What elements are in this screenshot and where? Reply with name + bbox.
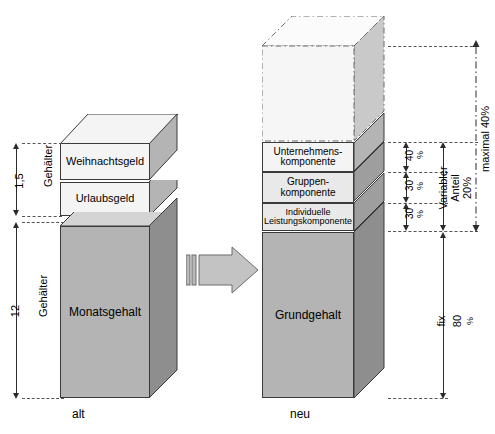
leader-urlaubsgeld-bottom <box>22 216 62 217</box>
urlaubsgeld-label: Urlaubsgeld <box>76 193 135 205</box>
dim-anteil-individuell-unit: % <box>415 202 425 226</box>
leader-monatsgehalt-top <box>22 222 64 223</box>
dim-fix-value: 80 <box>451 278 463 364</box>
gruppenkomponente-label-line2: komponente <box>280 188 335 199</box>
dim-anteil-gruppe-value: 30 <box>404 173 415 199</box>
dim-variabler-anteil-label: Variabler <box>437 145 449 231</box>
dim-monatsgehalt-unit: Gehälter <box>37 261 49 331</box>
monatsgehalt-label: Monatsgehalt <box>69 306 141 319</box>
dim-anteil-unternehmen-unit: % <box>415 143 425 167</box>
block-grundgehalt: Grundgehalt <box>262 232 354 398</box>
block-weihnachtsgeld: Weihnachtsgeld <box>60 143 150 180</box>
dim-maximal-label: maximal 40% <box>479 79 491 199</box>
dim-monatsgehalt-arrow-top <box>13 222 19 228</box>
caption-neu: neu <box>290 407 310 421</box>
leader-monatsgehalt-bottom <box>22 398 64 399</box>
block-monatsgehalt: Monatsgehalt <box>60 226 150 398</box>
dim-fix-arrow-top <box>440 232 446 238</box>
dim-anteil-individuell-value: 30 <box>404 201 415 227</box>
leader-unternehmen-top <box>388 142 478 143</box>
weihnachtsgeld-label: Weihnachtsgeld <box>66 156 144 168</box>
dim-fix-label: fix <box>435 278 447 364</box>
individuelle-leistungskomponente-label-line2: Leistungskomponente <box>264 217 352 226</box>
dim-variabler-anteil-label2: Anteil <box>449 145 461 231</box>
caption-alt: alt <box>72 407 85 421</box>
dim-anteil-gruppe-unit: % <box>415 174 425 198</box>
unternehmenskomponente-label-line2: komponente <box>280 157 335 168</box>
gruppenkomponente-label-line1: Gruppen- <box>287 177 329 188</box>
leader-individuell-bottom <box>388 231 478 232</box>
grundgehalt-label: Grundgehalt <box>275 309 341 322</box>
dim-fix-unit: % <box>465 278 475 364</box>
dim-sonderzahlungen-arrow-top <box>13 143 19 149</box>
dim-monatsgehalt-arrow-bottom <box>13 393 19 399</box>
block-individuelle-leistungskomponente: Individuelle Leistungskomponente <box>262 203 354 231</box>
block-gruppenkomponente: Gruppen- komponente <box>262 172 354 203</box>
monatsgehalt-side-face <box>149 198 183 403</box>
dim-fix-arrow-bottom <box>440 393 446 399</box>
figure-canvas: Weihnachtsgeld Urlaubsgeld Monatsgehalt … <box>0 0 495 434</box>
transition-arrow <box>186 245 264 299</box>
grundgehalt-side-face <box>354 202 388 402</box>
block-unternehmenskomponente: Unternehmens- komponente <box>262 142 354 172</box>
dim-sonderzahlungen-value: 1,5 <box>13 156 25 206</box>
block-urlaubsgeld: Urlaubsgeld <box>60 182 150 216</box>
dim-sonderzahlungen-arrow-bottom <box>13 210 19 216</box>
weihnachtsgeld-side-face <box>149 114 181 186</box>
dim-monatsgehalt-value: 12 <box>9 289 21 333</box>
block-potenzial-ghost <box>262 16 414 146</box>
leader-ghost-top <box>388 46 478 47</box>
dim-sonderzahlungen-unit: Gehälter <box>42 131 54 201</box>
dim-anteil-unternehmen-value: 40 <box>404 143 415 169</box>
